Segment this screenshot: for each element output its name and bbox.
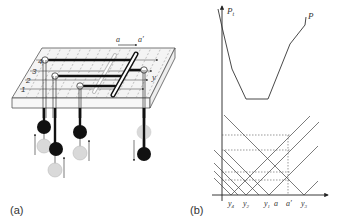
panel-a-label: (a) — [10, 204, 23, 216]
label-a: a — [116, 35, 120, 44]
row-label-4: 4 — [38, 57, 43, 66]
y-axis-label: Pt — [226, 6, 235, 17]
figure-canvas: 4 3 2 1 a a′ y — [0, 0, 338, 224]
panel-b-label: (b) — [190, 204, 203, 216]
curve-label-p: P — [307, 11, 314, 21]
p-curve — [218, 9, 306, 99]
tick-y1: y1 — [263, 199, 270, 209]
tick-a-prime: a′ — [286, 199, 292, 208]
tick-a: a — [274, 199, 278, 208]
dotted-guides — [222, 135, 290, 195]
pendulum-1 — [134, 108, 151, 161]
tick-y3: y3 — [300, 199, 308, 209]
tick-y2: y2 — [242, 199, 250, 209]
panel-a: 4 3 2 1 a a′ y — [10, 35, 175, 216]
pendulum-2 — [73, 108, 89, 161]
row-label-2: 2 — [25, 76, 31, 85]
pendulum-4 — [35, 108, 51, 155]
tick-y4: y4 — [227, 199, 235, 209]
panel-b: Pt P y4 — [190, 6, 328, 216]
row-label-3: 3 — [32, 67, 37, 76]
v-lines — [214, 115, 319, 195]
x-tick-labels: y4 y2 y1 a a′ y3 — [227, 199, 308, 209]
axis-label-y: y — [151, 72, 156, 82]
label-a-prime: a′ — [138, 35, 144, 44]
shift-arrow: a a′ — [116, 35, 144, 45]
row-label-1: 1 — [21, 85, 25, 94]
